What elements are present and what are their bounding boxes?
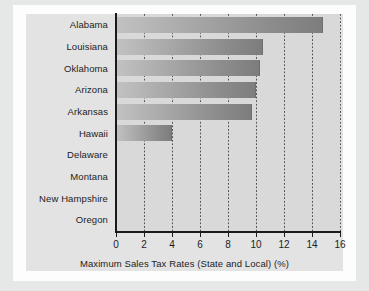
category-label-arizona: Arizona [28, 79, 112, 101]
x-axis-title: Maximum Sales Tax Rates (State and Local… [26, 258, 343, 269]
bar-louisiana [116, 39, 263, 55]
bar-row [116, 209, 340, 231]
x-tick-8 [228, 232, 229, 237]
x-tick-14 [312, 232, 313, 237]
bar-hawaii [116, 125, 172, 141]
bar-arkansas [116, 104, 252, 120]
x-tick-2 [144, 232, 145, 237]
category-label-oklahoma: Oklahoma [28, 57, 112, 79]
x-tick-label-12: 12 [271, 239, 297, 250]
x-tick-label-16: 16 [327, 239, 353, 250]
category-label-new-hampshire: New Hampshire [28, 188, 112, 210]
bar-arizona [116, 82, 256, 98]
x-tick-label-6: 6 [187, 239, 213, 250]
bar-row [116, 166, 340, 188]
bar-series [116, 14, 340, 231]
x-tick-10 [256, 232, 257, 237]
bar-alabama [116, 17, 323, 33]
value-axis-line-vertical [115, 13, 117, 232]
category-label-montana: Montana [28, 166, 112, 188]
x-tick-12 [284, 232, 285, 237]
sales-tax-bar-chart-figure: Alabama Louisiana Oklahoma Arizona Arkan… [0, 0, 369, 291]
category-label-arkansas: Arkansas [28, 101, 112, 123]
x-tick-16 [340, 232, 341, 237]
bar-oklahoma [116, 60, 260, 76]
plot-wrapper: Alabama Louisiana Oklahoma Arizona Arkan… [0, 0, 369, 291]
category-label-alabama: Alabama [28, 14, 112, 36]
plot-area [116, 14, 340, 231]
x-tick-0 [116, 232, 117, 237]
bar-row [116, 14, 340, 36]
bar-row [116, 57, 340, 79]
x-tick-label-2: 2 [131, 239, 157, 250]
x-tick-4 [172, 232, 173, 237]
x-tick-6 [200, 232, 201, 237]
x-tick-label-10: 10 [243, 239, 269, 250]
x-tick-label-0: 0 [103, 239, 129, 250]
gridline-16 [340, 14, 341, 231]
bar-row [116, 36, 340, 58]
category-label-delaware: Delaware [28, 144, 112, 166]
category-label-louisiana: Louisiana [28, 36, 112, 58]
bar-row [116, 144, 340, 166]
category-label-oregon: Oregon [28, 209, 112, 231]
x-tick-label-4: 4 [159, 239, 185, 250]
category-axis-labels: Alabama Louisiana Oklahoma Arizona Arkan… [28, 14, 112, 231]
bar-row [116, 123, 340, 145]
x-tick-label-14: 14 [299, 239, 325, 250]
category-label-hawaii: Hawaii [28, 123, 112, 145]
x-tick-label-8: 8 [215, 239, 241, 250]
bar-row [116, 79, 340, 101]
bar-row [116, 101, 340, 123]
bar-row [116, 188, 340, 210]
